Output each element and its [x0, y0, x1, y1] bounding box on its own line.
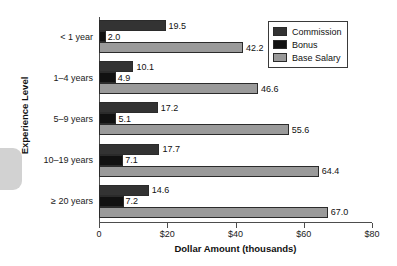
- x-tick-label-2: $40: [228, 229, 243, 239]
- bar-group: 5–9 years17.25.155.6: [99, 102, 372, 135]
- legend-item-commission[interactable]: Commission: [273, 25, 342, 38]
- bar-base[interactable]: [99, 207, 328, 218]
- legend-label-bonus: Bonus: [292, 40, 318, 50]
- legend-swatch-icon-bonus: [273, 40, 287, 49]
- bar-group: ≥ 20 years14.67.267.0: [99, 185, 372, 218]
- x-tick-0: [99, 223, 100, 228]
- y-tick-label-2: 5–9 years: [53, 114, 93, 124]
- bar-row: 7.1: [99, 155, 372, 166]
- bar-bonus[interactable]: [99, 72, 116, 83]
- bar-row: 67.0: [99, 207, 372, 218]
- bar-value-label: 46.6: [258, 84, 279, 94]
- bar-value-label: 17.7: [159, 144, 180, 154]
- bar-value-label: 55.6: [289, 125, 310, 135]
- bar-value-label: 5.1: [116, 114, 133, 124]
- bar-base[interactable]: [99, 166, 319, 177]
- bar-value-label: 7.2: [124, 196, 141, 206]
- x-tick-label-0: 0: [96, 229, 101, 239]
- legend-swatch-icon-base-salary: [273, 53, 287, 62]
- bar-bonus[interactable]: [99, 196, 124, 207]
- y-tick-label-1: 1–4 years: [53, 73, 93, 83]
- x-tick-label-1: $20: [160, 229, 175, 239]
- bar-value-label: 2.0: [106, 32, 123, 42]
- y-tick-label-3: 10–19 years: [43, 155, 93, 165]
- legend-label-commission: Commission: [292, 27, 342, 37]
- bar-bonus[interactable]: [99, 155, 123, 166]
- bar-commission[interactable]: [99, 144, 159, 155]
- bar-value-label: 7.1: [123, 155, 140, 165]
- bar-value-label: 10.1: [133, 62, 154, 72]
- y-axis-title: Experience Level: [19, 51, 30, 181]
- x-tick-label-3: $60: [296, 229, 311, 239]
- bar-base[interactable]: [99, 124, 289, 135]
- x-axis-title: Dollar Amount (thousands): [99, 243, 372, 254]
- bar-row: 64.4: [99, 166, 372, 177]
- bar-row: 17.2: [99, 102, 372, 113]
- bar-row: 55.6: [99, 124, 372, 135]
- bar-row: 17.7: [99, 144, 372, 155]
- x-tick-3: [304, 223, 305, 228]
- bar-row: 14.6: [99, 185, 372, 196]
- y-tick-label-4: ≥ 20 years: [51, 196, 93, 206]
- bar-value-label: 64.4: [319, 166, 340, 176]
- y-tick-label-0: < 1 year: [60, 32, 93, 42]
- legend-item-bonus[interactable]: Bonus: [273, 38, 342, 51]
- bar-row: 46.6: [99, 83, 372, 94]
- bar-commission[interactable]: [99, 20, 166, 31]
- bar-value-label: 42.2: [243, 43, 264, 53]
- bar-commission[interactable]: [99, 61, 133, 72]
- legend: Commission Bonus Base Salary: [268, 21, 348, 68]
- x-tick-2: [236, 223, 237, 228]
- bar-row: 5.1: [99, 113, 372, 124]
- bar-row: 4.9: [99, 72, 372, 83]
- bar-value-label: 19.5: [166, 21, 187, 31]
- bar-row: 7.2: [99, 196, 372, 207]
- x-tick-label-4: $80: [364, 229, 379, 239]
- bar-commission[interactable]: [99, 185, 149, 196]
- bar-bonus[interactable]: [99, 113, 116, 124]
- x-tick-1: [167, 223, 168, 228]
- x-tick-4: [372, 223, 373, 228]
- bar-commission[interactable]: [99, 102, 158, 113]
- bar-value-label: 17.2: [158, 103, 179, 113]
- legend-swatch-icon-commission: [273, 27, 287, 36]
- bar-base[interactable]: [99, 42, 243, 53]
- bar-base[interactable]: [99, 83, 258, 94]
- legend-label-base-salary: Base Salary: [292, 53, 341, 63]
- bar-group: 10–19 years17.77.164.4: [99, 144, 372, 177]
- bar-value-label: 67.0: [328, 207, 349, 217]
- legend-item-base-salary[interactable]: Base Salary: [273, 51, 342, 64]
- bar-bonus[interactable]: [99, 31, 106, 42]
- bar-chart-figure: 0$20$40$60$80 < 1 year19.52.042.21–4 yea…: [0, 0, 397, 266]
- bar-value-label: 4.9: [116, 73, 133, 83]
- bar-value-label: 14.6: [149, 185, 170, 195]
